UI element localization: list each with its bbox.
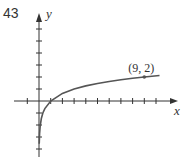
axes (14, 13, 178, 157)
point-marker (143, 75, 147, 79)
log-curve (39, 76, 159, 144)
x-axis-label: x (173, 103, 180, 118)
y-axis-label: y (44, 6, 52, 21)
point-label: (9, 2) (128, 61, 154, 75)
plot: (9, 2) x y (0, 0, 181, 157)
